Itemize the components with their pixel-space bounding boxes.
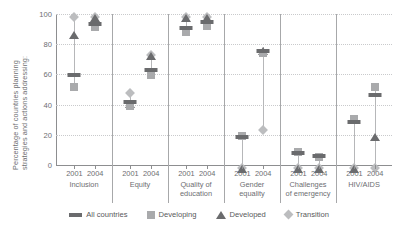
- data-point-all-countries[interactable]: [145, 68, 158, 72]
- data-point-developed[interactable]: [370, 133, 380, 141]
- y-tick-label-40: 40: [26, 100, 52, 109]
- y-tick-label-100: 100: [26, 10, 52, 19]
- y-tick-label-80: 80: [26, 40, 52, 49]
- x-tick-label-year: 2001: [234, 169, 250, 178]
- x-tick-label-year: 2004: [143, 169, 159, 178]
- legend-item-all-countries[interactable]: All countries: [69, 210, 127, 219]
- x-axis-category-label: Quality ofeducation: [180, 181, 212, 198]
- data-point-developing[interactable]: [371, 83, 379, 91]
- data-point-developed[interactable]: [146, 52, 156, 60]
- y-axis-title: Percentage of countries planning strateg…: [0, 0, 28, 175]
- data-point-all-countries[interactable]: [201, 20, 214, 24]
- data-point-developed[interactable]: [69, 31, 79, 39]
- category-separator: [280, 14, 281, 165]
- category-separator: [336, 14, 337, 165]
- plot-area: 020406080100: [56, 14, 392, 165]
- legend-label: Transition: [296, 210, 329, 219]
- category-separator: [168, 14, 169, 165]
- x-axis-category-separator: [112, 165, 113, 203]
- x-tick-label-year: 2004: [255, 169, 271, 178]
- data-point-all-countries[interactable]: [124, 100, 137, 104]
- x-axis-category-separator: [168, 165, 169, 203]
- x-axis-category-label: Challengesof emergency: [286, 181, 331, 198]
- y-tick-label-60: 60: [26, 70, 52, 79]
- bar-marker-icon: [69, 213, 82, 217]
- x-tick-label-year: 2001: [66, 169, 82, 178]
- category-separator: [224, 14, 225, 165]
- y-axis-line: [56, 14, 57, 165]
- x-axis-category-label: Genderequality: [239, 181, 264, 198]
- diamond-marker-icon: [283, 210, 293, 220]
- legend-item-transition[interactable]: Transition: [285, 210, 329, 219]
- data-point-developing[interactable]: [70, 83, 78, 91]
- x-tick-label-year: 2001: [178, 169, 194, 178]
- x-axis-category-separator: [336, 165, 337, 203]
- y-tick-label-0: 0: [26, 161, 52, 170]
- legend-item-developed[interactable]: Developed: [216, 210, 266, 219]
- square-marker-icon: [147, 211, 155, 219]
- chart-container: Percentage of countries planning strateg…: [0, 0, 398, 238]
- data-point-transition[interactable]: [258, 125, 268, 135]
- data-point-developing[interactable]: [147, 71, 155, 79]
- y-tick-label-20: 20: [26, 130, 52, 139]
- data-point-all-countries[interactable]: [180, 26, 193, 30]
- x-axis-category-label: Inclusion: [69, 181, 98, 190]
- x-tick-label-year: 2004: [311, 169, 327, 178]
- data-point-all-countries[interactable]: [313, 154, 326, 158]
- legend-item-developing[interactable]: Developing: [147, 210, 197, 219]
- x-axis-category-label: Equity: [130, 181, 151, 190]
- data-point-all-countries[interactable]: [236, 135, 249, 139]
- legend-label: Developed: [230, 210, 266, 219]
- point-connector: [263, 47, 264, 127]
- x-tick-label-year: 2004: [367, 169, 383, 178]
- data-point-all-countries[interactable]: [89, 22, 102, 26]
- x-axis: 20012004Inclusion20012004Equity20012004Q…: [56, 165, 392, 205]
- data-point-all-countries[interactable]: [68, 73, 81, 77]
- data-point-all-countries[interactable]: [348, 120, 361, 124]
- triangle-marker-icon: [216, 211, 226, 219]
- legend-label: Developing: [159, 210, 197, 219]
- data-point-transition[interactable]: [126, 88, 136, 98]
- legend-label: All countries: [86, 210, 127, 219]
- data-point-all-countries[interactable]: [257, 49, 270, 53]
- x-axis-category-separator: [224, 165, 225, 203]
- data-point-all-countries[interactable]: [292, 151, 305, 155]
- x-tick-label-year: 2004: [87, 169, 103, 178]
- x-axis-category-separator: [280, 165, 281, 203]
- x-tick-label-year: 2001: [290, 169, 306, 178]
- y-axis-title-line-1: Percentage of countries planning: [11, 60, 20, 170]
- x-axis-category-label: HIV/AIDS: [348, 181, 380, 190]
- data-point-developed[interactable]: [181, 14, 191, 22]
- x-tick-label-year: 2001: [346, 169, 362, 178]
- chart-legend: All countriesDevelopingDevelopedTransiti…: [0, 210, 398, 219]
- x-tick-label-year: 2001: [122, 169, 138, 178]
- data-point-all-countries[interactable]: [369, 93, 382, 97]
- x-tick-label-year: 2004: [199, 169, 215, 178]
- category-separator: [112, 14, 113, 165]
